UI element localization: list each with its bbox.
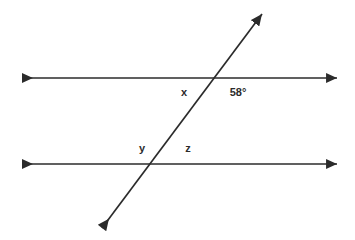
geometry-diagram: x 58° y z bbox=[0, 0, 355, 240]
angle-label-x: x bbox=[181, 87, 187, 98]
transversal-line bbox=[102, 14, 262, 228]
angle-label-y: y bbox=[139, 143, 145, 154]
geometry-canvas bbox=[0, 0, 355, 240]
angle-label-58: 58° bbox=[230, 87, 247, 98]
angle-label-z: z bbox=[185, 143, 191, 154]
